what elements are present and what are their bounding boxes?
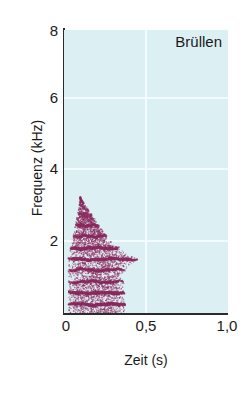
plot-area: Brüllen bbox=[64, 30, 228, 313]
x-tick-label-1p0: 1,0 bbox=[202, 318, 244, 334]
y-tick-label-8: 8 bbox=[2, 23, 58, 38]
spectrogram-trace bbox=[64, 30, 228, 313]
spectrogram-figure: 8 6 4 2 Frequenz (kHz) Brüllen 0 0,5 1,0… bbox=[0, 0, 244, 400]
y-axis-title: Frequenz (kHz) bbox=[29, 68, 45, 268]
x-axis-title: Zeit (s) bbox=[64, 352, 228, 368]
x-tick-label-0: 0 bbox=[41, 318, 91, 334]
x-tick-label-0p5: 0,5 bbox=[121, 318, 171, 334]
x-axis-line bbox=[63, 313, 228, 315]
